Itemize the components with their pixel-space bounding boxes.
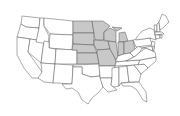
state-ct	[155, 35, 160, 39]
state-in	[118, 42, 124, 56]
state-ri	[160, 35, 162, 38]
state-nm	[53, 64, 73, 84]
state-vt	[154, 25, 157, 32]
state-wy	[49, 34, 73, 50]
state-co	[55, 49, 77, 64]
state-sd	[73, 33, 94, 45]
state-fl	[121, 82, 147, 102]
state-me	[159, 14, 169, 30]
state-ia	[94, 40, 110, 50]
state-ks	[77, 53, 99, 64]
state-ms	[111, 67, 119, 87]
state-ma	[155, 32, 164, 35]
us-map	[0, 0, 180, 116]
state-mt	[44, 18, 73, 35]
state-ny	[136, 28, 156, 40]
state-nd	[73, 21, 94, 33]
